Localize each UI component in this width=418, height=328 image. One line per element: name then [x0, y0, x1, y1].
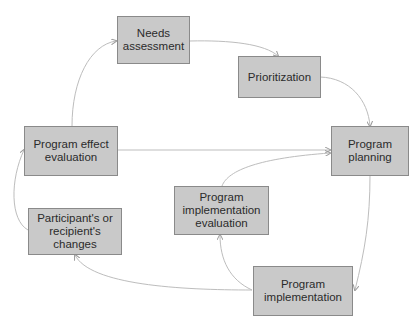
- edge-implementation-to-participant: [75, 255, 252, 290]
- node-program-planning: Program planning: [331, 126, 409, 176]
- node-program-implementation: Program implementation: [253, 266, 353, 316]
- node-participant-changes: Participant's or recipient's changes: [28, 208, 122, 255]
- node-program-implementation-evaluation: Program implementation evaluation: [174, 186, 269, 235]
- edge-prior-to-planning: [320, 77, 370, 126]
- edge-implementation-to-impl-eval: [220, 235, 252, 290]
- edge-planning-to-implementation: [355, 175, 370, 290]
- edge-needs-to-prior: [190, 41, 278, 56]
- node-program-effect-evaluation: Program effect evaluation: [24, 126, 118, 176]
- node-needs-assessment: Needs assessment: [117, 16, 190, 64]
- edge-impl-eval-to-planning: [222, 153, 330, 186]
- node-prioritization: Prioritization: [238, 56, 321, 98]
- edge-effect-to-needs: [72, 41, 116, 126]
